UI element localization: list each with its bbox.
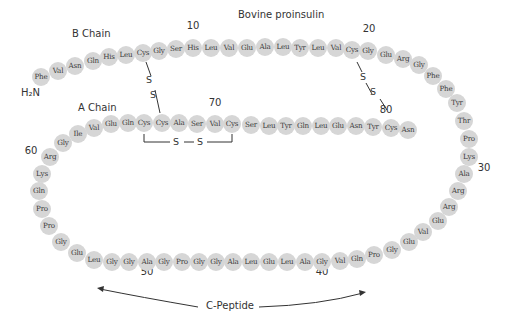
residue-ser: Ser <box>242 116 260 134</box>
residue-lys: Lys <box>33 165 51 183</box>
c-peptide-arrowhead-left <box>97 286 104 292</box>
residue-phe: Phe <box>32 68 50 86</box>
disulfide-s-left-2: S <box>150 89 156 100</box>
residue-gly: Gly <box>190 253 208 271</box>
intrachain-bracket-right <box>207 134 232 142</box>
residue-ala: Ala <box>224 253 242 271</box>
intrachain-s-1: S <box>173 136 179 147</box>
residue-arg: Arg <box>449 182 467 200</box>
residue-cys: Cys <box>135 114 153 132</box>
position-number: 60 <box>25 145 38 156</box>
residue-leu: Leu <box>202 39 220 57</box>
position-number: 30 <box>478 162 491 173</box>
c-peptide-label: C-Peptide <box>206 300 254 311</box>
residue-thr: Thr <box>455 112 473 130</box>
disulfide-s-right-1: S <box>360 71 366 82</box>
residue-glu: Glu <box>68 244 86 262</box>
residue-glu: Glu <box>260 253 278 271</box>
residue-pro: Pro <box>173 253 191 271</box>
residue-pro: Pro <box>460 130 478 148</box>
residue-glu: Glu <box>377 46 395 64</box>
residue-gly: Gly <box>313 253 331 271</box>
residue-leu: Leu <box>312 117 330 135</box>
residue-his: His <box>100 48 118 66</box>
residue-val: Val <box>85 119 103 137</box>
residue-leu: Leu <box>260 117 278 135</box>
residue-glu: Glu <box>102 115 120 133</box>
n-terminus-label: H₂N <box>21 87 40 98</box>
residue-tyr: Tyr <box>448 94 466 112</box>
residue-glu: Glu <box>400 233 418 251</box>
residue-cys: Cys <box>153 114 171 132</box>
residue-ala: Ala <box>256 38 274 56</box>
residue-leu: Leu <box>117 46 135 64</box>
position-number: 70 <box>209 97 222 108</box>
residue-cys: Cys <box>382 119 400 137</box>
residue-leu: Leu <box>85 251 103 269</box>
residue-glu: Glu <box>238 39 256 57</box>
residue-ala: Ala <box>296 253 314 271</box>
residue-ala: Ala <box>170 114 188 132</box>
residue-glu: Glu <box>329 117 347 135</box>
a-chain-label: A Chain <box>78 102 117 113</box>
residue-leu: Leu <box>242 253 260 271</box>
c-peptide-arrow-right-line <box>259 293 363 307</box>
c-peptide-arrow-left-line <box>100 289 198 307</box>
residue-gln: Gln <box>348 250 366 268</box>
residue-val: Val <box>331 252 349 270</box>
proinsulin-diagram: Bovine proinsulin B Chain A Chain H₂N C-… <box>0 0 510 330</box>
intrachain-bracket-left <box>144 134 170 142</box>
residue-leu: Leu <box>278 253 296 271</box>
residue-cys: Cys <box>223 115 241 133</box>
intrachain-s-2: S <box>197 136 203 147</box>
position-number: 10 <box>187 20 200 31</box>
residue-ala: Ala <box>455 165 473 183</box>
residue-ser: Ser <box>188 115 206 133</box>
residue-gly: Gly <box>103 253 121 271</box>
residue-gln: Gln <box>294 117 312 135</box>
residue-gly: Gly <box>383 241 401 259</box>
residue-asn: Asn <box>347 117 365 135</box>
residue-ser: Ser <box>167 40 185 58</box>
diagram-title: Bovine proinsulin <box>238 9 324 20</box>
residue-gly: Gly <box>120 253 138 271</box>
residue-gly: Gly <box>52 233 70 251</box>
residue-val: Val <box>220 39 238 57</box>
residue-pro: Pro <box>365 246 383 264</box>
residue-leu: Leu <box>274 38 292 56</box>
residue-lys: Lys <box>460 148 478 166</box>
disulfide-s-left-1: S <box>146 74 152 85</box>
residue-tyr: Tyr <box>364 118 382 136</box>
residue-gly: Gly <box>150 42 168 60</box>
residue-tyr: Tyr <box>291 39 309 57</box>
residue-ala: Ala <box>138 253 156 271</box>
disulfide-s-right-2: S <box>370 86 376 97</box>
c-peptide-arrowhead-right <box>359 290 366 296</box>
b-chain-label: B Chain <box>72 28 111 39</box>
residue-gly: Gly <box>155 253 173 271</box>
residue-tyr: Tyr <box>277 117 295 135</box>
position-number: 80 <box>380 104 393 115</box>
residue-gly: Gly <box>207 253 225 271</box>
position-number: 20 <box>363 23 376 34</box>
residue-gly: Gly <box>359 42 377 60</box>
residue-glu: Glu <box>429 212 447 230</box>
residue-pro: Pro <box>33 200 51 218</box>
residue-gln: Gln <box>30 182 48 200</box>
residue-his: His <box>184 39 202 57</box>
residue-val: Val <box>206 115 224 133</box>
residue-val: Val <box>49 62 67 80</box>
residue-arg: Arg <box>41 148 59 166</box>
residue-leu: Leu <box>309 39 327 57</box>
residue-pro: Pro <box>40 217 58 235</box>
residue-asn: Asn <box>399 121 417 139</box>
residue-asn: Asn <box>66 57 84 75</box>
